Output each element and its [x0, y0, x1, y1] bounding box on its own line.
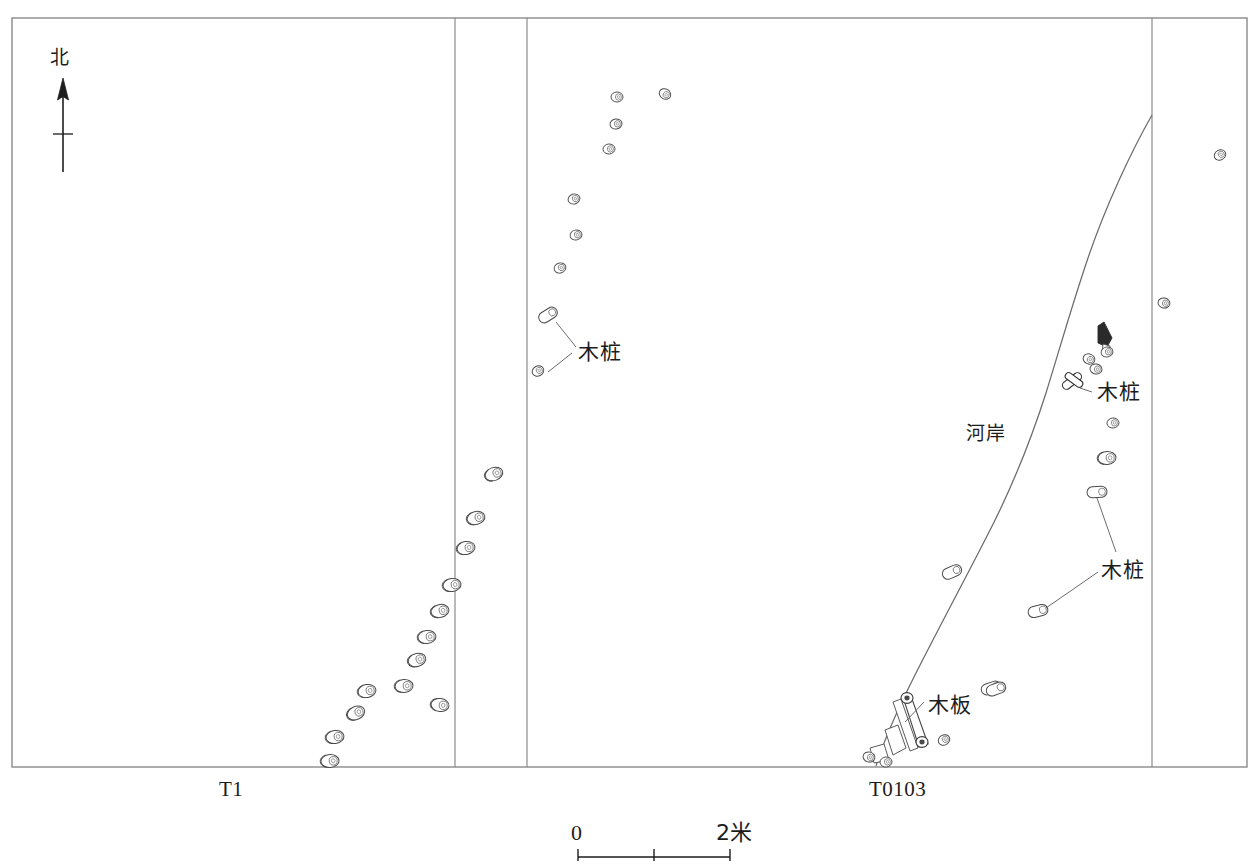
north-label: 北 — [50, 48, 70, 67]
site-plan-figure: 北 木桩 木桩 木桩 木板 河岸 T1 T0103 0 2米 — [0, 0, 1259, 867]
pile-callout-leader-left — [548, 322, 576, 372]
trench-frame — [12, 18, 1247, 767]
plan-drawing-canvas — [0, 0, 1259, 867]
scale-start-label: 0 — [571, 822, 583, 844]
pile-callout-leader-right-lower — [1046, 498, 1116, 608]
trench-label-t0103: T0103 — [869, 779, 926, 800]
north-arrow-icon — [53, 78, 73, 172]
frame-outer-rect — [12, 18, 1247, 767]
pile-label-right-lower: 木桩 — [1101, 560, 1145, 581]
plank-label: 木板 — [928, 695, 972, 716]
pile-group-t0103-north — [530, 87, 672, 378]
pile-label-right-upper: 木桩 — [1097, 382, 1141, 403]
pile-callout-leader-right-upper — [1080, 388, 1092, 392]
scale-end-label: 2米 — [716, 822, 753, 844]
pile-group-t1 — [320, 465, 505, 768]
riverbank-line — [876, 115, 1152, 766]
trench-label-t1: T1 — [219, 779, 243, 800]
scale-bar — [578, 849, 730, 861]
riverbank-label: 河岸 — [966, 424, 1006, 443]
pile-label-left: 木桩 — [578, 342, 622, 363]
